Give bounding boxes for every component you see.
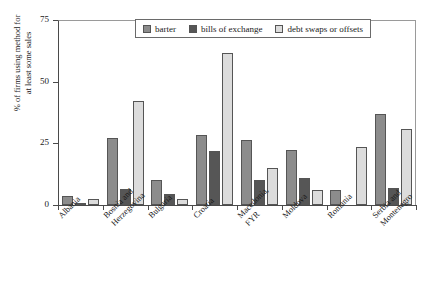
y-tick-label: 75 — [40, 14, 49, 24]
bar-group — [282, 20, 327, 205]
bar-group — [327, 20, 372, 205]
legend-swatch-icon — [189, 25, 197, 33]
legend-item: debt swaps or offsets — [275, 24, 363, 34]
legend-swatch-icon — [143, 25, 151, 33]
bar — [196, 135, 207, 205]
legend-label: bills of exchange — [201, 24, 262, 34]
bar — [107, 138, 118, 205]
legend-label: debt swaps or offsets — [287, 24, 363, 34]
legend-label: barter — [155, 24, 176, 34]
bar — [88, 199, 99, 205]
bar-chart: % of firms using method for at least som… — [0, 0, 434, 286]
chart-legend: barterbills of exchangedebt swaps or off… — [135, 19, 371, 38]
bar-group — [371, 20, 416, 205]
bar — [241, 140, 252, 205]
bar — [312, 190, 323, 205]
bar-group — [237, 20, 282, 205]
legend-swatch-icon — [275, 25, 283, 33]
legend-item: bills of exchange — [189, 24, 262, 34]
bar — [375, 114, 386, 205]
y-tick-label: 50 — [40, 76, 49, 86]
bars-container — [58, 20, 416, 205]
y-axis-title: % of firms using method for at least som… — [12, 0, 34, 148]
y-tick-label: 25 — [40, 137, 49, 147]
bar-group — [103, 20, 148, 205]
bar-group — [192, 20, 237, 205]
x-tick-mark — [416, 205, 417, 210]
bar — [356, 147, 367, 205]
y-tick-label: 0 — [45, 199, 50, 209]
bar — [222, 53, 233, 205]
bar-group — [148, 20, 193, 205]
bar-group — [58, 20, 103, 205]
bar — [177, 199, 188, 205]
legend-item: barter — [143, 24, 176, 34]
